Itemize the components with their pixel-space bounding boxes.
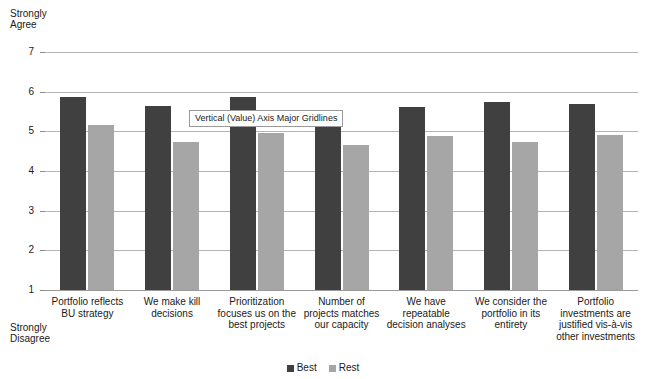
bar-best[interactable] — [569, 104, 595, 290]
y-axis-tick-mark — [40, 52, 45, 53]
category-axis-label: We consider the portfolio in its entiret… — [469, 296, 554, 331]
y-axis-tick-label: 6 — [8, 87, 34, 97]
plot-area — [45, 52, 638, 290]
y-axis-tick-label: 1 — [8, 285, 34, 295]
y-axis-tick-label: 3 — [8, 206, 34, 216]
y-axis-tick-mark — [40, 250, 45, 251]
axis-top-caption: Strongly Agree — [10, 8, 47, 30]
y-axis-tick-mark — [40, 171, 45, 172]
category-axis-label: Prioritization focuses us on the best pr… — [214, 296, 299, 331]
y-axis-tick-mark — [40, 92, 45, 93]
gridline — [45, 131, 638, 132]
y-axis-tick-mark — [40, 211, 45, 212]
gridline-callout-tooltip: Vertical (Value) Axis Major Gridlines — [189, 110, 343, 127]
bar-best[interactable] — [399, 107, 425, 290]
category-axis-label: Number of projects matches our capacity — [299, 296, 384, 331]
bar-rest[interactable] — [343, 145, 369, 290]
bar-rest[interactable] — [512, 142, 538, 290]
bar-rest[interactable] — [88, 125, 114, 290]
legend-item-rest[interactable]: Rest — [329, 362, 360, 373]
category-axis-label: Portfolio investments are justified vis-… — [553, 296, 638, 342]
bar-rest[interactable] — [173, 142, 199, 290]
gridline — [45, 211, 638, 212]
bar-best[interactable] — [484, 102, 510, 290]
y-axis-tick-label: 7 — [8, 47, 34, 57]
y-axis-tick-label: 2 — [8, 245, 34, 255]
category-axis-label: We have repeatable decision analyses — [384, 296, 469, 331]
legend-label: Best — [297, 362, 317, 373]
chart-legend: BestRest — [0, 362, 646, 373]
category-axis-label: Portfolio reflects BU strategy — [45, 296, 130, 319]
bar-rest[interactable] — [597, 135, 623, 290]
legend-swatch-icon — [287, 365, 294, 372]
category-axis-label: We make kill decisions — [130, 296, 215, 319]
legend-item-best[interactable]: Best — [287, 362, 317, 373]
y-axis-tick-label: 4 — [8, 166, 34, 176]
bar-rest[interactable] — [427, 136, 453, 290]
gridline — [45, 250, 638, 251]
bar-best[interactable] — [60, 97, 86, 290]
bar-best[interactable] — [145, 106, 171, 290]
gridline — [45, 52, 638, 53]
y-axis-tick-mark — [40, 131, 45, 132]
bar-chart: Strongly Agree Strongly Disagree 1234567… — [0, 0, 646, 379]
legend-label: Rest — [339, 362, 360, 373]
bar-rest[interactable] — [258, 133, 284, 290]
y-axis-tick-label: 5 — [8, 126, 34, 136]
bar-best[interactable] — [315, 110, 341, 290]
axis-bottom-caption: Strongly Disagree — [10, 322, 50, 344]
gridline — [45, 171, 638, 172]
category-axis-line — [45, 290, 638, 291]
gridline — [45, 92, 638, 93]
legend-swatch-icon — [329, 365, 336, 372]
